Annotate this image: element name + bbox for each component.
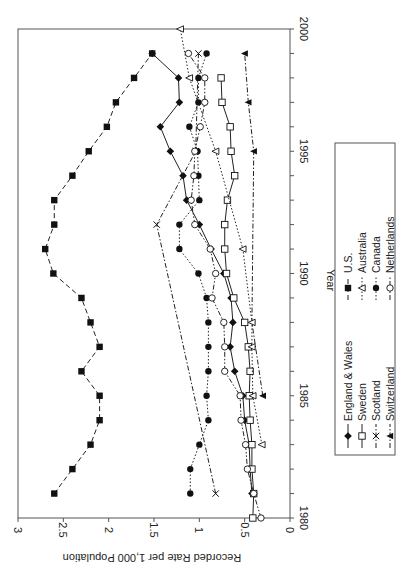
legend-label: Scotland [370, 380, 382, 421]
legend-label: Switzerland [384, 367, 396, 421]
y-tick-label: 2 [103, 527, 115, 533]
rotated-line-chart: 1980198519901995200000.511.522.53 Year R… [0, 0, 409, 573]
series-australia [177, 26, 265, 448]
x-tick-label: 1980 [298, 506, 310, 530]
y-tick-label: 1 [193, 527, 205, 533]
x-tick-label: 1995 [298, 139, 310, 163]
axis-ticks: 1980198519901995200000.511.522.53 [12, 17, 310, 538]
legend-label: Australia [356, 232, 368, 273]
y-tick-label: 2.5 [57, 522, 69, 537]
legend: England & WalesSwedenScotlandSwitzerland… [335, 143, 396, 455]
legend-label: England & Wales [342, 341, 354, 421]
y-tick-label: 0 [284, 527, 296, 533]
x-tick-label: 1990 [298, 261, 310, 285]
series-sweden [218, 75, 257, 522]
series-u-s [42, 50, 155, 497]
legend-label: U.S. [342, 253, 354, 273]
axis-titles: Year Recorded Rate per 1,000 Population [63, 269, 337, 564]
x-tick-label: 2000 [298, 17, 310, 41]
y-tick-label: 0.5 [239, 522, 251, 537]
legend-label: Canada [370, 236, 382, 273]
y-axis-title: Recorded Rate per 1,000 Population [63, 552, 242, 564]
data-series [42, 26, 266, 521]
x-tick-label: 1985 [298, 384, 310, 408]
series-scotland [154, 50, 219, 497]
series-canada [176, 50, 211, 496]
legend-label: Sweden [356, 383, 368, 421]
y-tick-label: 3 [12, 527, 24, 533]
legend-label: Netherlands [384, 216, 396, 273]
y-tick-label: 1.5 [148, 522, 160, 537]
